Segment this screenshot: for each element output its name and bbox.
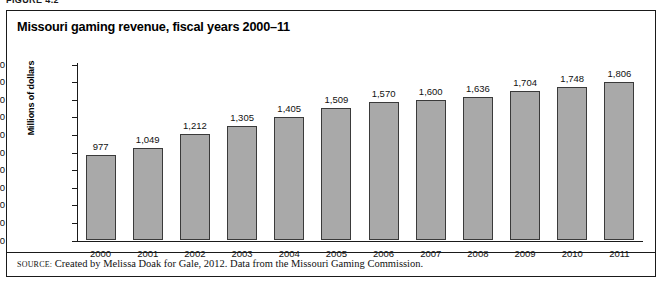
bar[interactable] [133, 148, 163, 240]
y-tick-mark [72, 153, 77, 154]
chart-plot-area: Millions of dollars 02004006008001,0001,… [7, 11, 657, 278]
source-divider [7, 252, 655, 253]
y-tick-mark [72, 241, 77, 242]
bar[interactable] [180, 134, 210, 241]
y-tick-label: 1,200 [0, 130, 5, 140]
x-category-label: 2011 [589, 249, 649, 259]
y-tick-label: 800 [0, 165, 5, 175]
y-tick-mark [72, 188, 77, 189]
y-tick-label: 0 [0, 236, 5, 246]
y-axis-line [77, 63, 78, 241]
bar[interactable] [227, 126, 257, 241]
y-tick-label: 1,600 [0, 95, 5, 105]
source-note: SOURCE: Created by Melissa Doak for Gale… [17, 258, 423, 269]
x-axis-line [77, 241, 643, 242]
bar[interactable] [604, 82, 634, 241]
bar[interactable] [510, 91, 540, 241]
y-tick-label: 600 [0, 183, 5, 193]
y-tick-mark [72, 65, 77, 66]
bar[interactable] [463, 97, 493, 241]
y-tick-label: 1,400 [0, 112, 5, 122]
bar[interactable] [369, 102, 399, 240]
y-tick-mark [72, 135, 77, 136]
y-tick-label: 1,000 [0, 148, 5, 158]
y-tick-mark [72, 100, 77, 101]
bar[interactable] [321, 108, 351, 241]
y-tick-label: 2,000 [0, 60, 5, 70]
bar-value-label: 1,305 [212, 113, 272, 123]
bar[interactable] [274, 117, 304, 241]
y-tick-label: 1,800 [0, 77, 5, 87]
y-tick-mark [72, 170, 77, 171]
source-keyword: SOURCE: [17, 260, 52, 269]
bar-value-label: 1,806 [589, 69, 649, 79]
y-tick-mark [72, 205, 77, 206]
y-tick-mark [72, 117, 77, 118]
bar[interactable] [86, 155, 116, 241]
y-tick-label: 200 [0, 218, 5, 228]
y-tick-label: 400 [0, 200, 5, 210]
bar-value-label: 1,049 [118, 135, 178, 145]
source-text: Created by Melissa Doak for Gale, 2012. … [52, 258, 423, 269]
bar-value-label: 1,405 [259, 104, 319, 114]
bar[interactable] [557, 87, 587, 241]
y-tick-mark [72, 223, 77, 224]
bar[interactable] [416, 100, 446, 241]
y-axis-title: Millions of dollars [26, 38, 36, 158]
bar-value-label: 1,212 [165, 121, 225, 131]
figure-frame: Missouri gaming revenue, fiscal years 20… [6, 10, 656, 277]
y-tick-mark [72, 82, 77, 83]
figure-caption: FIGURE 4.2 [6, 0, 59, 4]
